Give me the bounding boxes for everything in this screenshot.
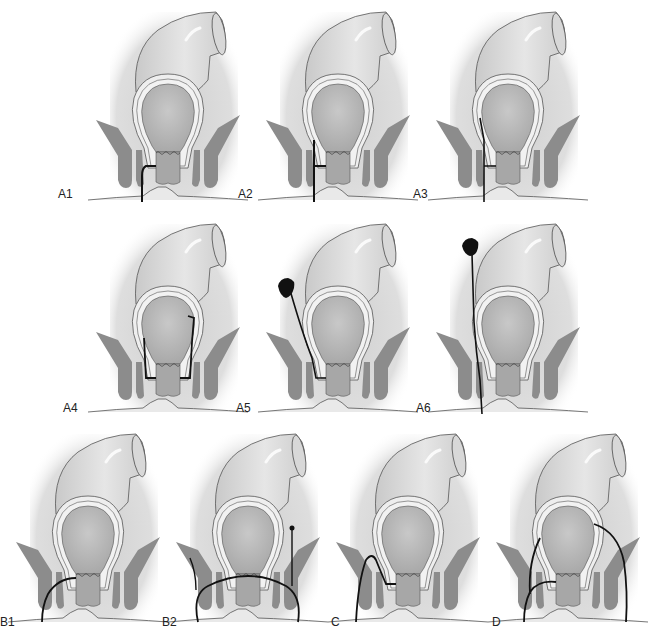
label-B1: B1	[0, 616, 15, 628]
label-D: D	[492, 616, 501, 628]
label-C: C	[331, 616, 340, 628]
panel-D	[488, 422, 648, 627]
label-A6: A6	[416, 402, 431, 414]
panel-A5	[258, 212, 418, 417]
label-B2: B2	[162, 616, 177, 628]
panel-B2	[168, 422, 328, 627]
label-A1: A1	[58, 188, 73, 200]
panel-B1	[8, 422, 168, 627]
panel-A6	[428, 212, 588, 417]
label-A4: A4	[63, 402, 78, 414]
label-A3: A3	[413, 188, 428, 200]
label-A2: A2	[238, 188, 253, 200]
panel-A3	[428, 0, 588, 205]
panel-A1	[88, 0, 248, 205]
label-A5: A5	[236, 402, 251, 414]
panel-C	[328, 422, 488, 627]
panel-A4	[88, 212, 248, 417]
panel-A2	[258, 0, 418, 205]
